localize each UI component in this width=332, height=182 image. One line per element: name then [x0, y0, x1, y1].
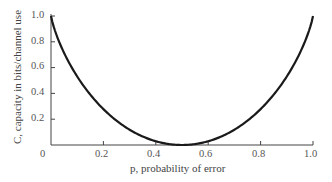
capacity-chart: C, capacity in bits/channel use p, proba…	[0, 0, 332, 182]
y-axis-label: C, capacity in bits/channel use	[11, 0, 25, 157]
capacity-curve	[51, 16, 313, 145]
x-tick-1.0: 1.0	[304, 148, 317, 159]
x-tick-0.6: 0.6	[199, 148, 212, 159]
x-tick-0.2: 0.2	[95, 148, 108, 159]
y-tick-0.6: 0.6	[31, 60, 44, 71]
x-tick-0.8: 0.8	[252, 148, 265, 159]
y-tick-0.8: 0.8	[31, 35, 44, 46]
x-tick-0.4: 0.4	[147, 148, 160, 159]
y-tick-0.4: 0.4	[31, 86, 44, 97]
plot-area	[0, 0, 332, 182]
x-axis-label: p, probability of error	[130, 162, 225, 174]
y-tick-0.2: 0.2	[31, 112, 44, 123]
x-tick-0: 0	[40, 148, 45, 159]
y-tick-1.0: 1.0	[31, 9, 44, 20]
